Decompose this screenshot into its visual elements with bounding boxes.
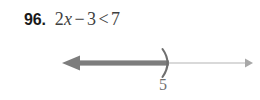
exercise-item: 96. 2x−3<7 5 — [0, 0, 260, 100]
number-line-svg — [0, 40, 260, 100]
problem-number: 96. — [24, 11, 46, 29]
right-side-value: 7 — [111, 9, 120, 29]
coefficient-term: 2 — [55, 9, 64, 29]
right-arrowhead-icon — [245, 59, 253, 68]
minus-operator: − — [72, 9, 87, 29]
endpoint-tick-label: 5 — [150, 76, 176, 94]
shaded-ray-bar — [77, 60, 169, 65]
inequality-expression: 2x−3<7 — [55, 9, 121, 30]
less-than-operator: < — [96, 9, 111, 29]
number-line-graph: 5 — [0, 40, 260, 100]
constant-term: 3 — [87, 9, 96, 29]
problem-statement: 96. 2x−3<7 — [24, 9, 120, 30]
left-arrowhead-icon — [62, 56, 80, 71]
